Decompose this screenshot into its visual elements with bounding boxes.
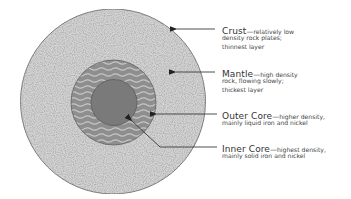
outer-core-label: Outer Core—higher density, mainly liquid… [222,109,325,127]
crust-desc-3: thinnest layer [222,42,294,51]
mantle-label: Mantle—high density rock, flowing slowly… [222,67,298,94]
inner-core [91,80,137,126]
earth-layers-diagram [0,0,351,199]
inner-core-label: Inner Core—highest density, mainly solid… [222,142,326,160]
mantle-desc-3: thickest layer [222,85,298,94]
crust-label: Crust—relatively low density rock plates… [222,24,294,51]
